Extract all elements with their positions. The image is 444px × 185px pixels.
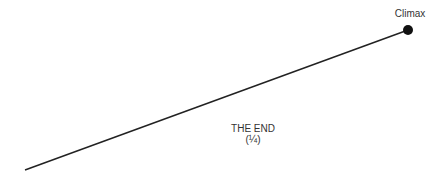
- end-label-fraction: (¼): [223, 134, 283, 145]
- plot-line-diagram: [0, 0, 444, 185]
- climax-point: [403, 25, 413, 35]
- end-label-title: THE END: [223, 123, 283, 134]
- progress-line: [25, 30, 408, 170]
- end-label: THE END (¼): [223, 123, 283, 145]
- climax-label: Climax: [388, 8, 432, 19]
